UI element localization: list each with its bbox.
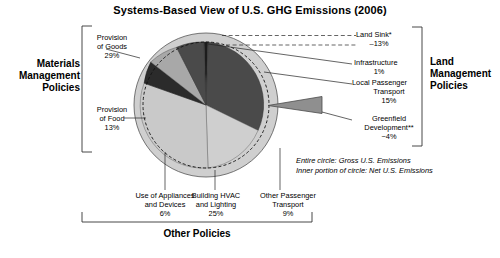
label-provision-of-goods: Provision of Goods 29% [84, 33, 140, 60]
note-net-emissions: Inner portion of circle: Net U.S. Emissi… [296, 166, 433, 176]
group-label-land-management-policies: Land Management Policies [430, 56, 500, 92]
note-gross-emissions: Entire circle: Gross U.S. Emissions [296, 156, 411, 166]
label-land-sink: Land Sink* –13% [356, 30, 428, 48]
label-building-hvac-lighting: Building HVAC and Lighting 25% [178, 191, 254, 218]
label-local-passenger-transport: Local Passenger Transport 15% [352, 78, 426, 105]
label-infrastructure: Infrastructure 1% [354, 58, 420, 76]
label-greenfield-development: Greenfield Development** ~4% [352, 114, 426, 141]
leader-greenfield-development [322, 112, 352, 120]
pie-slices [140, 42, 264, 168]
label-other-passenger-transport: Other Passenger Transport 9% [246, 191, 330, 218]
group-label-other-policies: Other Policies [82, 228, 312, 240]
group-label-materials-management-policies: Materials Management Policies [6, 58, 80, 94]
label-provision-of-food: Provision of Food 13% [84, 105, 140, 132]
figure-root: Systems-Based View of U.S. GHG Emissions… [0, 0, 500, 258]
leader-local-passenger-transport [264, 72, 352, 84]
